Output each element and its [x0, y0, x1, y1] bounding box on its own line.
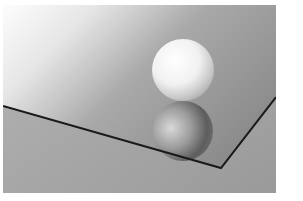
rendered-scene: 3D render of a white sphere resting on a… [3, 5, 276, 193]
mirror-sphere-render [3, 5, 276, 193]
white-sphere [152, 39, 214, 101]
